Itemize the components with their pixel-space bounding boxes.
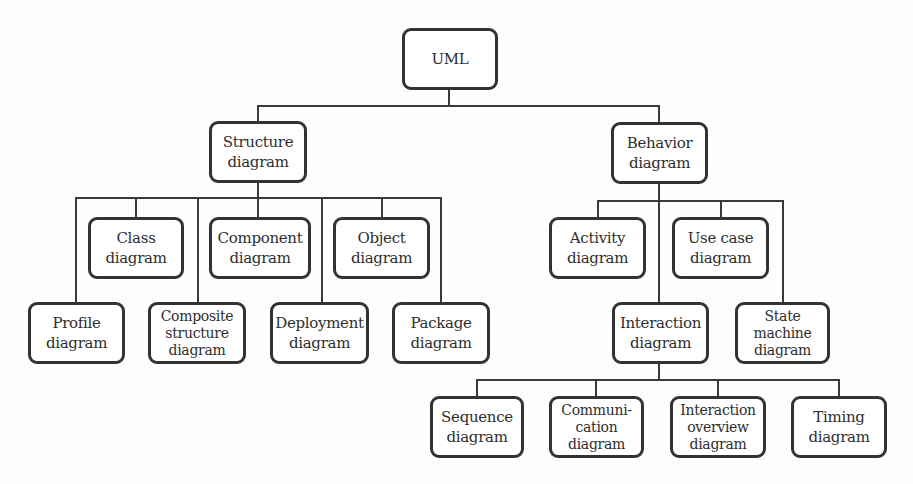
node-communication-diagram: Communi- cation diagram: [549, 396, 644, 458]
node-label: structure: [165, 325, 228, 342]
node-class-diagram: Class diagram: [88, 217, 184, 279]
node-label: Communi-: [561, 402, 632, 419]
node-composite-structure-diagram: Composite structure diagram: [148, 302, 246, 364]
node-component-diagram: Component diagram: [209, 217, 311, 279]
node-label: Profile: [52, 313, 100, 333]
node-state-machine-diagram: State machine diagram: [735, 302, 830, 364]
node-label: diagram: [629, 153, 690, 173]
node-label: Package: [410, 313, 471, 333]
node-label: Activity: [570, 228, 625, 248]
node-label: diagram: [808, 427, 869, 447]
node-label: Use case: [688, 228, 754, 248]
node-label: diagram: [46, 333, 107, 353]
node-label: diagram: [227, 152, 288, 172]
node-label: Composite: [161, 308, 234, 325]
node-label: Object: [357, 228, 405, 248]
node-profile-diagram: Profile diagram: [28, 302, 125, 364]
node-label: Interaction: [620, 313, 701, 333]
node-timing-diagram: Timing diagram: [791, 396, 887, 458]
node-label: cation: [576, 419, 618, 436]
node-label: diagram: [169, 342, 226, 359]
node-label: Structure: [223, 132, 294, 152]
node-label: Deployment: [275, 313, 364, 333]
node-label: diagram: [410, 333, 471, 353]
node-sequence-diagram: Sequence diagram: [430, 396, 524, 458]
node-label: diagram: [105, 248, 166, 268]
connector: [476, 379, 840, 381]
connector: [75, 197, 77, 303]
connector: [257, 105, 660, 107]
node-label: diagram: [690, 248, 751, 268]
node-label: Component: [218, 228, 303, 248]
node-package-diagram: Package diagram: [392, 302, 490, 364]
node-label: State: [765, 308, 801, 325]
connector: [440, 197, 442, 303]
node-object-diagram: Object diagram: [333, 217, 430, 279]
node-behavior-diagram: Behavior diagram: [611, 122, 708, 184]
node-label: Behavior: [627, 133, 693, 153]
node-label: diagram: [289, 333, 350, 353]
node-label: diagram: [567, 248, 628, 268]
node-label: UML: [431, 49, 468, 69]
connector: [658, 105, 660, 123]
node-label: diagram: [630, 333, 691, 353]
node-label: Interaction: [680, 402, 756, 419]
node-label: diagram: [351, 248, 412, 268]
node-label: Sequence: [441, 407, 513, 427]
connector: [135, 197, 137, 218]
node-interaction-diagram: Interaction diagram: [612, 302, 709, 364]
connector: [717, 379, 719, 397]
node-label: Class: [116, 228, 155, 248]
connector: [381, 197, 383, 218]
uml-hierarchy-diagram: UML Structure diagram Behavior diagram C…: [0, 0, 913, 484]
connector: [595, 379, 597, 397]
connector: [782, 200, 784, 303]
node-label: overview: [687, 419, 749, 436]
node-interaction-overview-diagram: Interaction overview diagram: [670, 396, 766, 458]
node-label: diagram: [568, 436, 625, 453]
connector: [321, 197, 323, 303]
node-activity-diagram: Activity diagram: [549, 217, 646, 279]
connector: [597, 200, 599, 218]
connector: [720, 200, 722, 218]
connector: [257, 197, 259, 218]
node-use-case-diagram: Use case diagram: [672, 217, 769, 279]
connector: [197, 197, 199, 303]
node-uml: UML: [402, 28, 498, 90]
node-label: diagram: [229, 248, 290, 268]
node-label: diagram: [690, 436, 747, 453]
node-label: machine: [753, 325, 811, 342]
connector: [476, 379, 478, 397]
node-label: diagram: [446, 427, 507, 447]
node-deployment-diagram: Deployment diagram: [270, 302, 369, 364]
connector: [838, 379, 840, 397]
node-label: Timing: [813, 407, 864, 427]
node-label: diagram: [754, 342, 811, 359]
connector: [257, 105, 259, 122]
node-structure-diagram: Structure diagram: [209, 121, 307, 183]
connector: [597, 200, 784, 202]
